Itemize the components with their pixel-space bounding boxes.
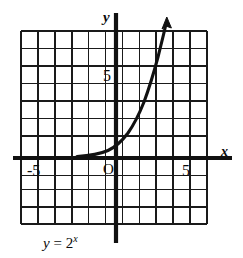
x-axis-label: x [221,145,228,159]
caption-variable: y [43,235,50,251]
x-tick-label-5: 5 [182,163,190,179]
origin-label: O [103,162,114,177]
caption-equals-base: = 2 [50,235,73,251]
x-tick-label-negative-5: -5 [27,163,40,179]
coordinate-plane-svg [0,0,243,258]
graph-figure: y x 5 5 -5 O y = 2x [0,0,243,258]
y-tick-label-5: 5 [103,68,111,84]
caption-exponent: x [73,233,77,244]
equation-caption: y = 2x [43,234,78,251]
y-axis-label: y [103,10,110,25]
